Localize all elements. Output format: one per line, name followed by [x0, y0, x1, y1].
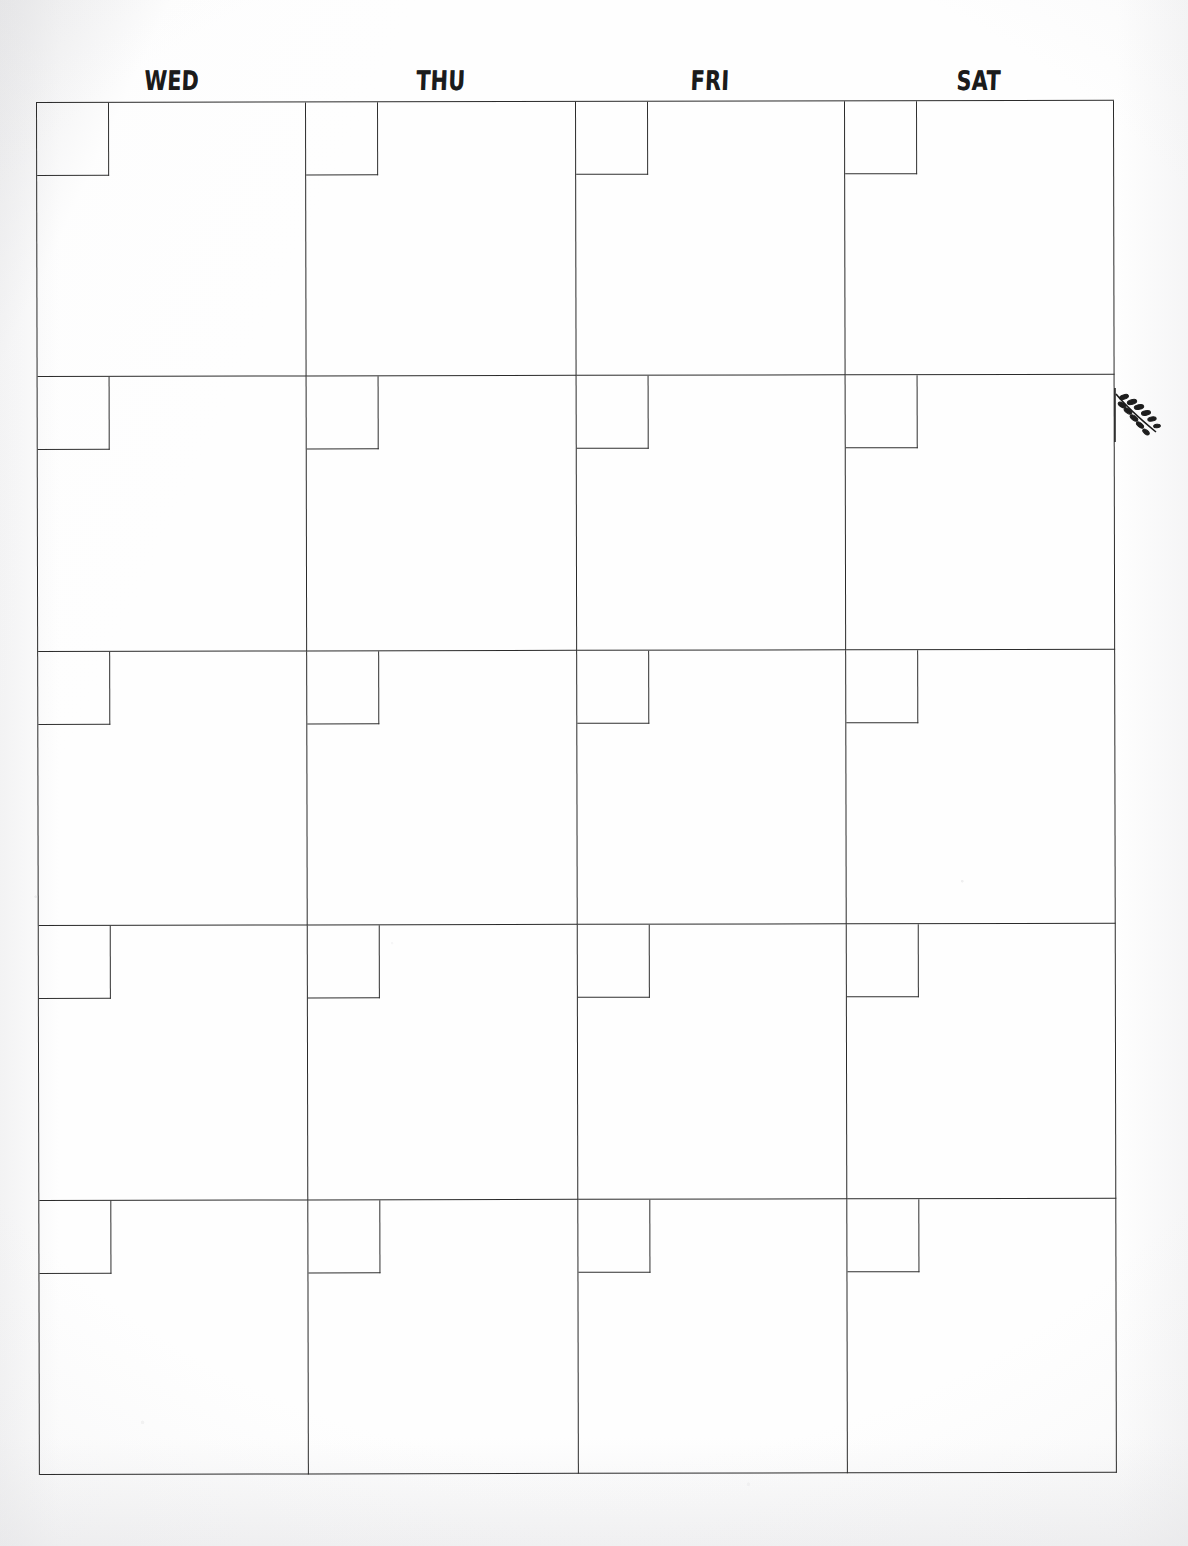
day-cell[interactable]: [307, 651, 577, 926]
day-cell[interactable]: [39, 926, 309, 1201]
date-box[interactable]: [577, 651, 649, 724]
date-box[interactable]: [39, 1200, 111, 1273]
date-box[interactable]: [38, 652, 110, 725]
day-cell[interactable]: [306, 102, 576, 377]
date-box[interactable]: [845, 376, 917, 449]
day-cell[interactable]: [38, 651, 308, 926]
date-box[interactable]: [308, 925, 380, 998]
day-header-label: SAT: [956, 65, 1001, 96]
day-cell[interactable]: [576, 101, 846, 376]
day-header-wed: WED: [36, 52, 305, 98]
date-box[interactable]: [38, 377, 110, 450]
date-box[interactable]: [847, 1199, 919, 1272]
date-box[interactable]: [578, 1199, 650, 1272]
date-box[interactable]: [39, 926, 111, 999]
day-cell[interactable]: [845, 375, 1115, 650]
date-box[interactable]: [37, 103, 109, 176]
day-cell[interactable]: [846, 924, 1116, 1199]
day-cell[interactable]: [577, 650, 847, 925]
date-box[interactable]: [309, 1200, 381, 1273]
day-header-thu: THU: [305, 52, 574, 98]
day-cell[interactable]: [847, 1198, 1117, 1473]
day-header-row: WED THU FRI SAT: [36, 52, 1113, 98]
day-cell[interactable]: [309, 1199, 579, 1474]
day-cell[interactable]: [577, 924, 847, 1199]
day-cell[interactable]: [578, 1199, 848, 1474]
date-box[interactable]: [576, 102, 648, 175]
day-header-label: THU: [415, 65, 465, 96]
day-header-sat: SAT: [844, 52, 1113, 98]
day-cell[interactable]: [576, 376, 846, 651]
calendar-page: WED THU FRI SAT: [0, 0, 1188, 1546]
day-header-fri: FRI: [575, 52, 844, 98]
day-cell[interactable]: [846, 650, 1116, 925]
day-header-label: WED: [143, 65, 199, 96]
date-box[interactable]: [306, 102, 378, 175]
day-cell[interactable]: [845, 101, 1115, 376]
date-box[interactable]: [577, 925, 649, 998]
day-cell[interactable]: [307, 376, 577, 651]
date-box[interactable]: [307, 377, 379, 450]
date-box[interactable]: [845, 101, 917, 174]
date-box[interactable]: [846, 650, 918, 723]
day-cell[interactable]: [38, 377, 308, 652]
day-cell[interactable]: [39, 1200, 309, 1475]
date-box[interactable]: [576, 376, 648, 449]
day-header-label: FRI: [690, 65, 730, 96]
date-box[interactable]: [307, 651, 379, 724]
day-cell[interactable]: [308, 925, 578, 1200]
day-cell[interactable]: [37, 102, 307, 377]
calendar-grid: [36, 100, 1117, 1475]
date-box[interactable]: [846, 924, 918, 997]
